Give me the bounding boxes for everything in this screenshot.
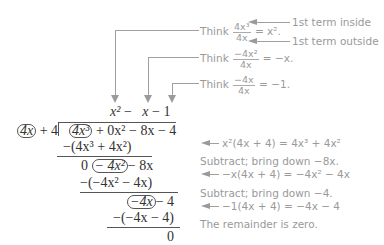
fraction: −4x4x xyxy=(233,75,255,96)
connector-think1-horizontal xyxy=(115,30,199,31)
step2-rule xyxy=(80,192,178,193)
quotient: x² − x − 1 xyxy=(110,105,170,119)
dividend: 4x³ + 0x² − 8x − 4 xyxy=(69,124,176,138)
step1-result: 0 − 4x²− 8x xyxy=(81,159,153,173)
step1-lead-term: − 4x² xyxy=(92,159,128,173)
step2-result: −4x− 4 xyxy=(127,195,174,209)
think-step3: Think −4x4x = −1. xyxy=(200,75,290,96)
fraction: −4x²4x xyxy=(233,49,258,70)
step3-subtraction: −(−4x − 4) xyxy=(113,211,174,225)
arrow-outside-shaft xyxy=(256,41,290,42)
think-step1: Think 4x³4x = x². xyxy=(200,22,281,43)
step3-rule xyxy=(107,227,180,228)
arrow-down-x2-icon xyxy=(111,95,119,103)
explanation-2: Subtract; bring down −8x. xyxy=(200,156,339,167)
arrow-down-x-icon xyxy=(144,95,152,103)
step1-rule xyxy=(57,156,152,157)
division-bracket xyxy=(58,122,59,136)
dividend-lead-term: 4x³ xyxy=(69,124,92,138)
connector-think1-vertical xyxy=(115,30,116,96)
label-first-term-outside: 1st term outside xyxy=(292,36,379,47)
explanation-4: Subtract; bring down −4. xyxy=(200,188,333,199)
arrow-shaft xyxy=(209,206,219,207)
arrow-inside-shaft xyxy=(256,22,290,23)
divisor: 4x + 4 xyxy=(17,124,58,138)
explanation-6: The remainder is zero. xyxy=(200,219,318,230)
explanation-1: x²(4x + 4) = 4x³ + 4x² xyxy=(222,138,341,149)
explanation-3: −x(4x + 4) = −4x² − 4x xyxy=(222,169,350,180)
connector-think2-horizontal xyxy=(148,57,199,58)
step1-subtraction: −(4x³ + 4x²) xyxy=(63,140,132,154)
arrow-shaft xyxy=(209,174,219,175)
explanation-5: −1(4x + 4) = −4x − 4 xyxy=(222,201,340,212)
divisor-lead-term: 4x xyxy=(17,124,36,138)
connector-think2-vertical xyxy=(148,57,149,96)
arrow-shaft xyxy=(209,143,219,144)
think-step2: Think −4x²4x = −x. xyxy=(200,49,293,70)
remainder: 0 xyxy=(167,230,174,244)
step2-subtraction: −(−4x² − 4x) xyxy=(80,176,152,190)
label-first-term-inside: 1st term inside xyxy=(292,17,371,28)
arrow-down-1-icon xyxy=(168,95,176,103)
connector-think3-horizontal xyxy=(172,83,199,84)
step2-lead-term: −4x xyxy=(127,195,156,209)
